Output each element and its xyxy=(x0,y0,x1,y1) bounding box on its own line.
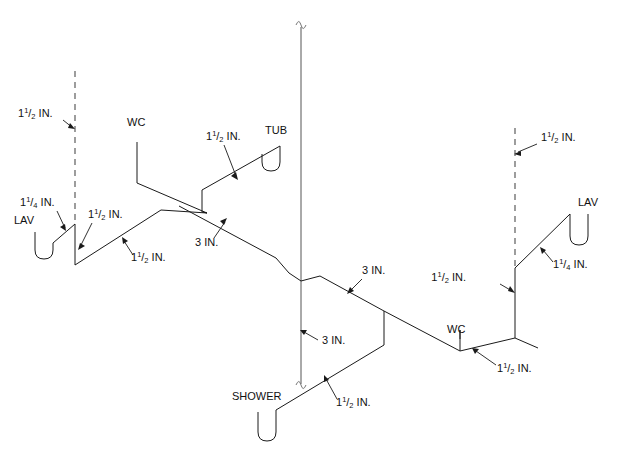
sz6-unit: IN. xyxy=(371,264,385,276)
wc-left-branch-line xyxy=(137,142,207,213)
fixture-label-lav-right: LAV xyxy=(578,196,599,208)
wc-right-group xyxy=(460,330,515,351)
sz3-unit: IN. xyxy=(152,251,166,263)
svg-text:11/4 IN.: 11/4 IN. xyxy=(20,195,55,210)
size-label-lav-right-trap-arm: 11/4 IN. xyxy=(553,257,588,272)
size-label-shower-branch: 11/2 IN. xyxy=(336,395,371,410)
leader-lav-left-branch xyxy=(80,223,92,247)
size-label-vent-left-top: 11/2 IN. xyxy=(18,106,53,121)
tub-group xyxy=(202,146,280,213)
svg-text:11/2 IN.: 11/2 IN. xyxy=(88,207,123,222)
diagram-canvas: LAV WC TUB SHOWER WC LAV 11/2 IN. 11/4 I… xyxy=(0,0,617,458)
size-label-lav-left-trap-arm: 11/4 IN. xyxy=(20,195,55,210)
arrowhead-vent-left-top xyxy=(68,123,75,129)
plumbing-isometric-diagram: LAV WC TUB SHOWER WC LAV 11/2 IN. 11/4 I… xyxy=(0,0,617,458)
size-label-main-3in-upper: 3 IN. xyxy=(195,236,218,248)
sz1-unit: IN. xyxy=(41,196,55,208)
svg-text:11/2 IN.: 11/2 IN. xyxy=(131,250,166,265)
leader-wc-right-branch xyxy=(476,351,496,365)
wc-right-branch-line xyxy=(460,338,515,351)
fixture-label-wc-right: WC xyxy=(447,323,465,335)
tub-p-trap xyxy=(262,146,280,171)
lav-left-group xyxy=(35,224,75,259)
lav-right-p-trap xyxy=(570,214,588,245)
sz5-unit: IN. xyxy=(204,236,218,248)
arrowhead-lav-left-trap xyxy=(60,224,66,231)
size-label-vent-right-lower: 11/2 IN. xyxy=(431,270,466,285)
shower-p-trap xyxy=(258,410,276,441)
fixture-label-shower: SHOWER xyxy=(232,390,282,402)
sz0-unit: IN. xyxy=(39,107,53,119)
sz2-unit: IN. xyxy=(109,208,123,220)
svg-text:11/4 IN.: 11/4 IN. xyxy=(553,257,588,272)
arrowhead-vent-right-lower xyxy=(508,286,515,293)
arrowhead-lav-left-branch xyxy=(78,243,85,250)
leader-stack-3in-lower xyxy=(304,332,318,340)
size-label-wc-left-branch: 11/2 IN. xyxy=(131,250,166,265)
sz10-unit: IN. xyxy=(452,271,466,283)
arrowhead-wc-right-branch xyxy=(472,348,479,354)
sz7-unit: IN. xyxy=(331,334,345,346)
leader-lav-right-trap xyxy=(543,250,553,262)
size-label-lav-left-branch: 11/2 IN. xyxy=(88,207,123,222)
svg-text:11/2 IN.: 11/2 IN. xyxy=(206,129,241,144)
fixture-label-wc-left: WC xyxy=(127,116,145,128)
svg-text:3 IN.: 3 IN. xyxy=(362,264,385,276)
sz4-unit: IN. xyxy=(227,130,241,142)
size-label-main-3in-mid: 3 IN. xyxy=(362,264,385,276)
fixture-label-tub: TUB xyxy=(265,124,287,136)
fixture-label-lav-left: LAV xyxy=(14,214,35,226)
size-label-stack-3in-lower: 3 IN. xyxy=(322,334,345,346)
sz8-unit: IN. xyxy=(357,396,371,408)
size-label-vent-right-top: 11/2 IN. xyxy=(541,130,576,145)
svg-text:3 IN.: 3 IN. xyxy=(322,334,345,346)
svg-text:11/2 IN.: 11/2 IN. xyxy=(336,395,371,410)
wc-left-group xyxy=(137,142,207,213)
svg-text:11/2 IN.: 11/2 IN. xyxy=(497,361,532,376)
svg-text:3 IN.: 3 IN. xyxy=(195,236,218,248)
right-vent-branch-foot xyxy=(515,338,538,348)
sz11-unit: IN. xyxy=(574,258,588,270)
right-vent-group xyxy=(515,128,538,348)
svg-text:11/2 IN.: 11/2 IN. xyxy=(541,130,576,145)
sz9-unit: IN. xyxy=(518,362,532,374)
lav-left-p-trap xyxy=(35,224,75,259)
leader-vent-right-top xyxy=(518,144,537,152)
leader-tub-branch xyxy=(224,145,236,176)
svg-text:11/2 IN.: 11/2 IN. xyxy=(18,106,53,121)
arrowhead-main-3in-upper xyxy=(220,218,227,225)
tub-branch-line xyxy=(202,146,280,213)
size-labels-group: 11/2 IN. 11/4 IN. 11/2 IN. 11/2 IN. xyxy=(18,106,588,410)
sz12-unit: IN. xyxy=(562,131,576,143)
size-label-tub-branch: 11/2 IN. xyxy=(206,129,241,144)
fixture-labels-group: LAV WC TUB SHOWER WC LAV xyxy=(14,116,599,402)
size-label-wc-right-branch: 11/2 IN. xyxy=(497,361,532,376)
svg-text:11/2 IN.: 11/2 IN. xyxy=(431,270,466,285)
